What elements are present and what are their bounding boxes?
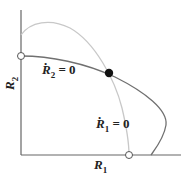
filled-equilibrium-interior: [105, 69, 113, 77]
r2-nullcline-label: R2 = 0: [42, 62, 76, 80]
r1-nullcline-label: R1 = 0: [96, 116, 130, 134]
phase-plane-diagram: [0, 0, 187, 179]
y-label-base: R: [2, 81, 17, 90]
r2-eq-rhs: = 0: [55, 62, 75, 77]
r1-nullcline-curve: [21, 22, 129, 155]
open-equilibrium-r2-axis: [18, 53, 25, 60]
y-label-sub: 2: [10, 77, 20, 82]
x-axis-label: R1: [94, 157, 107, 175]
x-label-base: R: [94, 157, 103, 172]
y-axis-label: R2: [2, 77, 20, 90]
r2-dot-symbol: R: [42, 62, 51, 78]
r1-dot-symbol: R: [96, 116, 105, 132]
x-label-sub: 1: [103, 165, 108, 175]
r1-eq-rhs: = 0: [109, 116, 129, 131]
open-equilibrium-r1-axis: [126, 152, 133, 159]
